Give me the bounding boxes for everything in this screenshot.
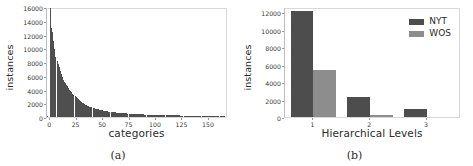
ytick-mark — [282, 101, 284, 102]
chart-a-ylabel: instances — [4, 38, 15, 98]
ytick-label-16000: 16000 — [16, 5, 43, 12]
xtick-mark — [129, 118, 130, 120]
xtick-mark — [312, 118, 313, 120]
ytick-label-2000: 2000 — [254, 97, 281, 104]
ytick-mark — [282, 118, 284, 119]
ytick-mark — [282, 83, 284, 84]
ytick-label-6000: 6000 — [254, 62, 281, 69]
ytick-mark — [44, 118, 46, 119]
ytick-label-10000: 10000 — [254, 27, 281, 34]
subfigure-b: instances NYT WOS 0200040006000800010000… — [236, 0, 473, 166]
bar-nyt-level-2 — [347, 97, 370, 117]
xtick-mark — [102, 118, 103, 120]
legend-entry-nyt: NYT — [409, 17, 451, 26]
ytick-label-8000: 8000 — [16, 60, 43, 67]
bar-nyt-level-1 — [291, 11, 314, 117]
chart-a-plot-area — [46, 8, 227, 118]
chart-b-legend: NYT WOS — [409, 17, 451, 38]
ytick-label-12000: 12000 — [16, 32, 43, 39]
ytick-mark — [282, 48, 284, 49]
bar-wos-level-2 — [370, 115, 393, 117]
ytick-mark — [44, 22, 46, 23]
ytick-mark — [44, 36, 46, 37]
ytick-mark — [44, 63, 46, 64]
figure-container: instances 020004000600080001000012000140… — [0, 0, 473, 166]
chart-a-xlabel: categories — [46, 127, 227, 139]
ytick-label-0: 0 — [254, 115, 281, 122]
ytick-mark — [282, 66, 284, 67]
ytick-label-4000: 4000 — [16, 87, 43, 94]
ytick-mark — [282, 31, 284, 32]
xtick-mark — [49, 118, 50, 120]
ytick-label-6000: 6000 — [16, 73, 43, 80]
xtick-mark — [369, 118, 370, 120]
ytick-label-14000: 14000 — [16, 18, 43, 25]
ytick-mark — [282, 13, 284, 14]
bar-nyt-level-3 — [404, 109, 427, 117]
bar-wos-level-1 — [313, 70, 336, 117]
ytick-mark — [44, 8, 46, 9]
ytick-label-10000: 10000 — [16, 46, 43, 53]
legend-entry-wos: WOS — [409, 29, 451, 38]
subfigure-a: instances 020004000600080001000012000140… — [0, 0, 236, 166]
legend-swatch-nyt — [409, 19, 424, 25]
ytick-label-4000: 4000 — [254, 80, 281, 87]
chart-b-plot-area: NYT WOS — [284, 8, 460, 118]
chart-a-bars — [47, 9, 226, 117]
ytick-mark — [44, 77, 46, 78]
subfigure-b-caption: (b) — [236, 149, 473, 162]
legend-label-nyt: NYT — [429, 17, 447, 26]
xtick-mark — [76, 118, 77, 120]
chart-b-xlabel: Hierarchical Levels — [284, 127, 460, 139]
ytick-label-8000: 8000 — [254, 45, 281, 52]
ytick-label-2000: 2000 — [16, 101, 43, 108]
ytick-mark — [44, 49, 46, 50]
legend-swatch-wos — [409, 31, 424, 37]
histogram-bar — [224, 116, 225, 117]
xtick-mark — [181, 118, 182, 120]
xtick-mark — [155, 118, 156, 120]
ytick-mark — [44, 91, 46, 92]
ytick-label-12000: 12000 — [254, 10, 281, 17]
histogram-bar — [47, 116, 48, 117]
chart-b-ylabel: instances — [242, 38, 253, 98]
legend-label-wos: WOS — [429, 29, 451, 38]
ytick-mark — [44, 104, 46, 105]
ytick-label-0: 0 — [16, 115, 43, 122]
xtick-mark — [208, 118, 209, 120]
subfigure-a-caption: (a) — [0, 149, 236, 162]
xtick-mark — [426, 118, 427, 120]
